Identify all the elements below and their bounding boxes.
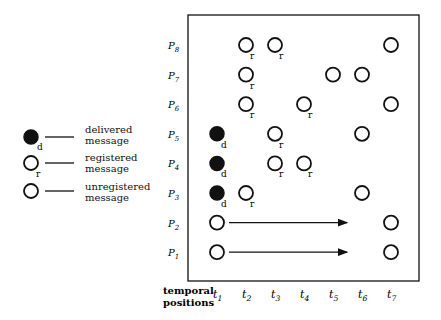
row-p1 <box>210 245 398 259</box>
marker-subscript: r <box>250 199 255 209</box>
legend-label-unregistered: unregistered message <box>85 181 150 203</box>
process-axis-labels: P8P7P6P5P4P3P2P1 <box>167 40 180 261</box>
registered-message-icon <box>297 156 311 170</box>
process-label-p2: P2 <box>167 218 180 232</box>
legend-label-line: message <box>85 163 137 174</box>
axis-title-line2: positions <box>163 297 214 308</box>
delivered-message-icon <box>210 186 224 200</box>
time-label-t3: t3 <box>271 288 280 303</box>
legend-label-line: message <box>85 135 132 146</box>
axis-title-line1: temporal <box>163 285 214 296</box>
legend-label-registered: registered message <box>85 152 137 174</box>
unregistered-message-icon <box>384 38 398 52</box>
delivered-message-icon <box>24 130 38 144</box>
delivered-message-icon <box>210 156 224 170</box>
marker-subscript: r <box>279 169 284 179</box>
marker-subscript: d <box>221 140 227 150</box>
legend-item-delivered: d <box>24 130 74 152</box>
unregistered-message-icon <box>24 184 38 198</box>
marker-subscript: r <box>279 140 284 150</box>
marker-subscript: r <box>308 110 313 120</box>
unregistered-message-icon <box>210 216 224 230</box>
process-label-p4: P4 <box>167 158 179 172</box>
marker-subscript: r <box>279 51 284 61</box>
unregistered-message-icon <box>355 186 369 200</box>
process-label-p5: P5 <box>167 129 180 143</box>
registered-message-icon <box>239 38 253 52</box>
process-label-p8: P8 <box>167 40 180 54</box>
registered-message-icon <box>24 156 38 170</box>
row-p7: r <box>239 68 369 91</box>
legend-label-line: message <box>85 192 150 203</box>
time-label-t5: t5 <box>329 288 338 303</box>
process-label-p6: P6 <box>167 99 180 113</box>
event-markers: rrrrrdrdrrdr <box>210 38 398 259</box>
row-p3: dr <box>210 186 369 209</box>
time-label-t7: t7 <box>387 288 396 303</box>
time-label-t1: t1 <box>213 288 222 303</box>
marker-subscript: d <box>221 199 227 209</box>
time-label-t4: t4 <box>300 288 309 303</box>
unregistered-message-icon <box>355 127 369 141</box>
row-p2 <box>210 216 398 230</box>
unregistered-message-icon <box>326 68 340 82</box>
registered-message-icon <box>239 186 253 200</box>
unregistered-message-icon <box>384 97 398 111</box>
legend-marker-d: d <box>37 142 43 152</box>
row-p5: dr <box>210 127 369 150</box>
marker-subscript: r <box>308 169 313 179</box>
marker-subscript: r <box>250 81 255 91</box>
legend-item-registered: r <box>24 156 74 179</box>
marker-subscript: r <box>250 51 255 61</box>
legend: d r <box>24 130 74 198</box>
registered-message-icon <box>239 97 253 111</box>
time-label-t2: t2 <box>242 288 251 303</box>
process-label-p1: P1 <box>167 247 179 261</box>
registered-message-icon <box>268 38 282 52</box>
marker-subscript: d <box>221 169 227 179</box>
row-p6: rr <box>239 97 398 120</box>
registered-message-icon <box>239 68 253 82</box>
legend-label-line: unregistered <box>85 181 150 192</box>
legend-marker-r: r <box>36 169 41 179</box>
legend-label-line: registered <box>85 152 137 163</box>
row-p4: drr <box>210 156 313 179</box>
process-label-p3: P3 <box>167 188 180 202</box>
unregistered-message-icon <box>384 216 398 230</box>
legend-item-unregistered <box>24 184 74 198</box>
row-p8: rr <box>239 38 398 61</box>
legend-label-line: delivered <box>85 124 132 135</box>
registered-message-icon <box>297 97 311 111</box>
time-label-t6: t6 <box>358 288 367 303</box>
message-timeline-diagram: d r P8P7P6P5P4P3P2P1 t1t2t3t4t5t6t7 rrrr… <box>0 0 441 320</box>
registered-message-icon <box>268 156 282 170</box>
registered-message-icon <box>268 127 282 141</box>
unregistered-message-icon <box>384 245 398 259</box>
legend-label-delivered: delivered message <box>85 124 132 146</box>
unregistered-message-icon <box>355 68 369 82</box>
delivered-message-icon <box>210 127 224 141</box>
marker-subscript: r <box>250 110 255 120</box>
time-axis-labels: t1t2t3t4t5t6t7 <box>213 288 396 303</box>
process-label-p7: P7 <box>167 70 180 84</box>
unregistered-message-icon <box>210 245 224 259</box>
